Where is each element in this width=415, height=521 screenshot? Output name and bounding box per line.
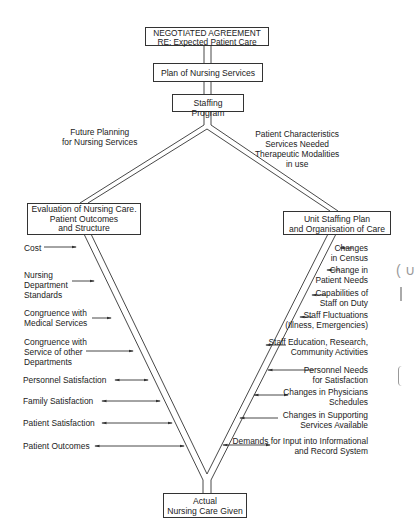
box-line: and Organisation of Care	[287, 224, 387, 234]
factor-congruence-other-departments: Congruence with Service of other Departm…	[24, 337, 87, 367]
label-line: Community Activities	[269, 347, 368, 357]
label-line: Demands for Input into Informational	[233, 436, 368, 446]
label-line: in Census	[331, 253, 368, 263]
label-line: Congruence with	[24, 308, 87, 318]
label-line: and Record System	[233, 446, 368, 456]
factor-congruence-medical: Congruence with Medical Services	[24, 308, 87, 328]
factor-personnel-needs: Personnel Needs for Satisfaction	[304, 365, 368, 385]
label-line: Nursing	[24, 270, 68, 280]
label-line: Capabilities of	[315, 288, 368, 298]
factor-patient-satisfaction: Patient Satisfaction	[23, 418, 95, 428]
label-line: Changes in Supporting	[283, 410, 368, 420]
factor-capabilities-of-staff: Capabilities of Staff on Duty	[315, 288, 368, 308]
factor-supporting-services: Changes in Supporting Services Available	[283, 410, 368, 430]
evaluation-box: Evaluation of Nursing Care. Patient Outc…	[27, 203, 141, 235]
factor-staff-fluctuations: Staff Fluctuations (Illness, Emergencies…	[285, 310, 368, 330]
future-planning-label: Future Planning for Nursing Services	[62, 127, 137, 147]
margin-mark: ( ∪	[396, 262, 415, 278]
label-line: Staff on Duty	[315, 298, 368, 308]
label-line: Changes in Physicians	[283, 387, 368, 397]
label-line: Cost	[24, 243, 41, 253]
factor-physician-schedules: Changes in Physicians Schedules	[283, 387, 368, 407]
label-line: Service of other	[24, 347, 87, 357]
factor-changes-in-census: Changes in Census	[331, 243, 368, 263]
factor-change-in-patient-needs: Change in Patient Needs	[315, 265, 368, 285]
label-line: Change in	[315, 265, 368, 275]
label-line: Patient Outcomes	[23, 441, 90, 451]
box-line: Unit Staffing Plan	[287, 214, 387, 224]
label-line: Personnel Satisfaction	[23, 375, 106, 385]
box-line: Nursing Care Given	[167, 506, 243, 516]
label-line: Departments	[24, 357, 87, 367]
label-line: Changes	[331, 243, 368, 253]
label-line: Therapeutic Modalities	[255, 149, 339, 159]
label-line: for Satisfaction	[304, 375, 368, 385]
margin-mark	[400, 287, 402, 301]
unit-staffing-plan-box: Unit Staffing Plan and Organisation of C…	[283, 211, 391, 235]
label-line: Congruence with	[24, 337, 87, 347]
box-line: and Structure	[31, 224, 137, 234]
factor-staff-education: Staff Education, Research, Community Act…	[269, 337, 368, 357]
factor-family-satisfaction: Family Satisfaction	[23, 396, 93, 406]
factor-cost: Cost	[24, 243, 41, 253]
box-line: RE: Expected Patient Care	[148, 38, 266, 47]
staffing-program-box: Staffing Program	[172, 94, 244, 112]
factor-demands-for-input: Demands for Input into Informational and…	[233, 436, 368, 456]
label-line: Patient Characteristics	[255, 129, 339, 139]
label-line: Patient Satisfaction	[23, 418, 95, 428]
label-line: for Nursing Services	[62, 137, 137, 147]
margin-mark	[398, 366, 402, 386]
label-line: Standards	[24, 290, 68, 300]
label-line: Staff Fluctuations	[285, 310, 368, 320]
label-line: Family Satisfaction	[23, 396, 93, 406]
label-line: Department	[24, 280, 68, 290]
plan-of-nursing-services-box: Plan of Nursing Services	[153, 63, 263, 82]
label-line: Services Needed	[255, 139, 339, 149]
factor-personnel-satisfaction: Personnel Satisfaction	[23, 375, 106, 385]
factor-nursing-department-standards: Nursing Department Standards	[24, 270, 68, 300]
label-line: (Illness, Emergencies)	[285, 320, 368, 330]
patient-characteristics-label: Patient Characteristics Services Needed …	[255, 129, 339, 169]
label-line: Future Planning	[62, 127, 137, 137]
label-line: Medical Services	[24, 318, 87, 328]
label-line: Personnel Needs	[304, 365, 368, 375]
factor-patient-outcomes: Patient Outcomes	[23, 441, 90, 451]
label-line: Staff Education, Research,	[269, 337, 368, 347]
box-line: Actual	[167, 496, 243, 506]
actual-nursing-care-box: Actual Nursing Care Given	[163, 493, 247, 518]
label-line: Schedules	[283, 397, 368, 407]
negotiated-agreement-box: NEGOTIATED AGREEMENT RE: Expected Patien…	[145, 27, 269, 46]
label-line: Services Available	[283, 420, 368, 430]
label-line: Patient Needs	[315, 275, 368, 285]
label-line: in use	[255, 159, 339, 169]
